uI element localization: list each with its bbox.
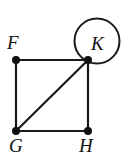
- graph-diagram: F K G H: [0, 0, 133, 159]
- vertex-label-F: F: [7, 33, 19, 52]
- vertex-H: [84, 127, 92, 135]
- vertex-label-H: H: [79, 136, 93, 155]
- vertex-G: [12, 127, 20, 135]
- vertex-label-G: G: [9, 136, 23, 155]
- vertex-K: [84, 56, 92, 64]
- vertex-label-K: K: [91, 34, 104, 53]
- edge-G-K: [16, 60, 88, 131]
- vertex-F: [12, 56, 20, 64]
